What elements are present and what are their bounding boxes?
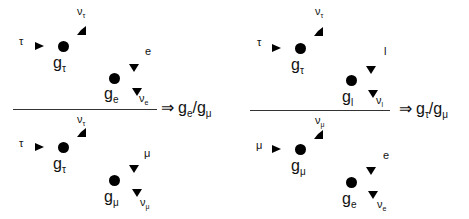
vertex-dot-icon — [109, 175, 120, 186]
coupling-label: ge — [104, 86, 118, 105]
neutrino-label: νe — [377, 199, 386, 212]
coupling-label: gτ — [53, 55, 66, 74]
fraction-line — [13, 109, 157, 110]
outgoing-arrow-icon — [129, 165, 139, 173]
neutrino-label: ντ — [315, 6, 323, 19]
incoming-arrow-icon — [272, 44, 281, 52]
implies-arrow-icon: ⇒ — [399, 100, 412, 117]
outgoing-arrow-icon — [129, 64, 139, 72]
vertex-dot-icon — [295, 43, 306, 54]
outgoing-arrow-icon — [366, 66, 376, 74]
vertex-dot-icon — [346, 177, 357, 188]
coupling-label: gτ — [291, 57, 304, 76]
incoming-tau-label: τ — [257, 37, 261, 48]
vertex-dot-icon — [58, 142, 69, 153]
incoming-muon-label: μ — [256, 140, 262, 151]
neutrino-label: ντ — [77, 114, 85, 127]
incoming-tau-label: τ — [19, 36, 23, 47]
outgoing-arrow-icon — [366, 167, 376, 175]
incoming-arrow-icon — [35, 42, 44, 50]
implies-arrow-icon: ⇒ — [161, 99, 174, 116]
neutrino-label: νμ — [315, 115, 325, 128]
incoming-tau-label: τ — [19, 138, 23, 149]
neutrino-label: νμ — [140, 197, 150, 210]
incoming-arrow-icon — [35, 143, 44, 151]
incoming-arrow-icon — [272, 145, 281, 153]
fraction-line — [250, 110, 390, 111]
outgoing-lepton-label: e — [145, 46, 151, 57]
coupling-label: gμ — [104, 189, 119, 208]
neutrino-arrow-icon — [314, 27, 323, 36]
neutrino-label: ντ — [77, 6, 85, 19]
outgoing-lepton-label: e — [383, 150, 389, 161]
vertex-dot-icon — [346, 75, 357, 86]
coupling-label: gμ — [291, 158, 306, 177]
outgoing-lepton-label: l — [384, 46, 386, 57]
neutrino-label: νe — [139, 93, 148, 106]
vertex-dot-icon — [109, 73, 120, 84]
coupling-label: gτ — [53, 156, 66, 175]
neutrino-label: νl — [376, 95, 383, 108]
neutrino-arrow-icon — [314, 130, 323, 139]
coupling-label: gl — [342, 89, 353, 108]
neutrino-arrow-icon — [77, 26, 86, 35]
outgoing-lepton-label: μ — [144, 148, 150, 159]
ratio-result-right: ⇒gτ/gμ — [399, 101, 448, 120]
ratio-result-left: ⇒ge/gμ — [161, 100, 212, 119]
coupling-label: ge — [342, 191, 356, 210]
vertex-dot-icon — [295, 144, 306, 155]
neutrino-arrow-icon — [77, 128, 86, 137]
vertex-dot-icon — [58, 41, 69, 52]
